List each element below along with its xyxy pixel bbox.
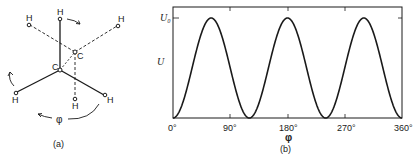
c-c-bond xyxy=(60,52,75,70)
y-axis-label: U xyxy=(157,56,165,67)
atom-label-h-top: H xyxy=(57,7,64,17)
figure-canvas: H H H C C H H H φ (a) U₀ U 0° 90° 180° 2… xyxy=(0,0,415,154)
x-axis-label: φ xyxy=(285,132,292,143)
atom-label-h-lower-right: H xyxy=(107,95,114,105)
atom-label-h-lower-left: H xyxy=(12,95,19,105)
atom-label-c-front: C xyxy=(52,62,59,72)
x-ticks xyxy=(173,7,402,118)
x-tick-label-360: 360° xyxy=(394,123,413,133)
atom-label-c-back: C xyxy=(77,51,84,61)
bond-front-right xyxy=(60,70,104,95)
angle-label-phi: φ xyxy=(56,114,63,125)
ethane-labels: H H H C C H H H φ (a) xyxy=(12,7,125,149)
potential-curve xyxy=(173,18,402,118)
x-tick-label-270: 270° xyxy=(337,123,356,133)
x-tick-label-90: 90° xyxy=(223,123,237,133)
energy-plot: U₀ U 0° 90° 180° 270° 360° φ (b) xyxy=(157,7,413,154)
atom-label-h-upper-right: H xyxy=(118,14,125,24)
carbon-front-atom xyxy=(58,68,62,72)
caption-b: (b) xyxy=(280,144,291,154)
bond-front-left xyxy=(17,70,60,92)
x-tick-label-0: 0° xyxy=(168,123,177,133)
rotation-arrow-top-icon xyxy=(67,19,80,24)
ethane-diagram xyxy=(8,17,120,119)
bond-back-right xyxy=(75,26,117,52)
plot-frame xyxy=(173,7,402,118)
atom-label-h-bottom: H xyxy=(72,101,79,111)
caption-a: (a) xyxy=(53,139,64,149)
y-tick-label-u0: U₀ xyxy=(160,12,171,23)
bond-back-left xyxy=(30,25,75,52)
atom-label-h-upper-left: H xyxy=(26,13,33,23)
